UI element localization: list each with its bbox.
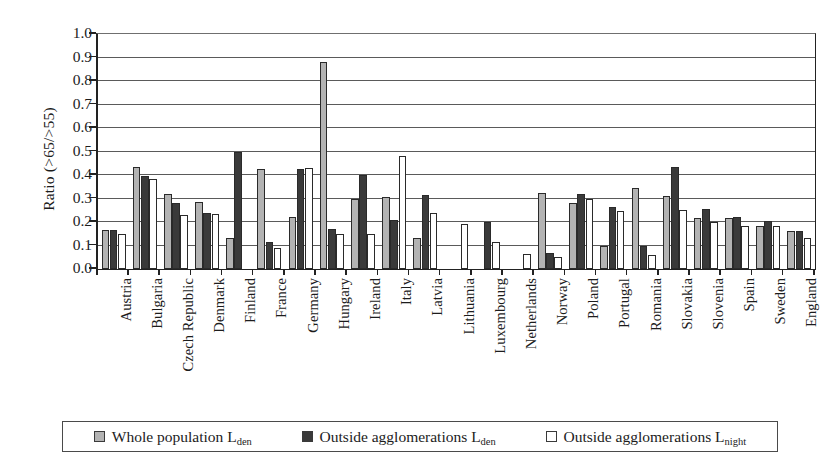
bar (546, 253, 554, 269)
x-tick-mark (190, 269, 192, 275)
x-tick-label: Germany (305, 278, 322, 333)
bar (523, 254, 531, 269)
y-tick-mark (89, 103, 96, 105)
x-tick-mark (532, 269, 534, 275)
plot-area (96, 33, 816, 270)
x-tick-mark (96, 269, 98, 275)
bar-group (566, 34, 597, 269)
x-tick-label: Czech Republic (180, 278, 197, 372)
x-tick-mark (221, 269, 223, 275)
x-tick-mark (470, 269, 472, 275)
x-tick-label: Italy (398, 278, 415, 305)
y-tick-label: 0.2 (52, 213, 92, 229)
bar (554, 257, 562, 269)
bar (804, 238, 812, 269)
legend-label: Outside agglomerations Lden (320, 428, 496, 446)
bar (118, 234, 126, 269)
legend-swatch-icon (302, 431, 313, 442)
bar (141, 176, 149, 269)
bar (741, 226, 749, 269)
y-tick-mark (89, 267, 96, 269)
x-tick-label: Finland (242, 278, 259, 323)
y-tick-mark (89, 126, 96, 128)
x-tick-mark (813, 269, 815, 275)
bar (203, 213, 211, 269)
bar (694, 218, 702, 269)
x-tick-mark (283, 269, 285, 275)
bar (336, 234, 344, 269)
x-tick-label: Poland (585, 278, 602, 319)
bar (609, 207, 617, 269)
bar (110, 230, 118, 269)
legend-item[interactable]: Whole population Lden (94, 428, 252, 446)
y-tick-label: 0.4 (52, 166, 92, 182)
x-tick-label: Norway (554, 278, 571, 325)
bar (796, 231, 804, 269)
y-tick-label: 0.7 (52, 96, 92, 112)
bar-group (316, 34, 347, 269)
x-tick-label: Denmark (211, 278, 228, 333)
bar (133, 167, 141, 269)
legend-item[interactable]: Outside agglomerations Lden (302, 428, 496, 446)
bar (671, 167, 679, 269)
bar-group (410, 34, 441, 269)
bar (430, 213, 438, 269)
x-tick-mark (501, 269, 503, 275)
bar (725, 218, 733, 269)
y-tick-mark (89, 197, 96, 199)
bar-group (659, 34, 690, 269)
bar (632, 188, 640, 269)
bar-group (472, 34, 503, 269)
bar-group (192, 34, 223, 269)
chart-legend: Whole population LdenOutside agglomerati… (62, 421, 778, 452)
x-tick-label: Lithuania (461, 278, 478, 334)
x-tick-mark (314, 269, 316, 275)
x-tick-mark (377, 269, 379, 275)
bar (382, 197, 390, 269)
legend-item[interactable]: Outside agglomerations Lnight (546, 428, 747, 446)
x-axis-ticks (96, 269, 813, 276)
bar-group (98, 34, 129, 269)
bar-chart-figure: Ratio (>65/>55) 0.00.10.20.30.40.50.60.7… (0, 0, 840, 474)
bar (351, 199, 359, 270)
bar (617, 211, 625, 269)
x-tick-label: Luxembourg (492, 278, 509, 354)
bar (640, 246, 648, 270)
x-tick-mark (127, 269, 129, 275)
x-tick-label: Sweden (772, 278, 789, 325)
x-tick-label: Bulgaria (149, 278, 166, 329)
x-tick-label: Portugal (616, 278, 633, 328)
y-tick-label: 0.0 (52, 260, 92, 276)
x-tick-mark (626, 269, 628, 275)
y-tick-label: 1.0 (52, 25, 92, 41)
y-tick-label: 0.9 (52, 49, 92, 65)
bar (359, 175, 367, 269)
x-tick-mark (252, 269, 254, 275)
x-tick-mark (408, 269, 410, 275)
bar-groups (98, 34, 815, 269)
y-tick-mark (89, 150, 96, 152)
y-tick-label: 0.3 (52, 190, 92, 206)
y-tick-mark (89, 244, 96, 246)
bar-group (721, 34, 752, 269)
bar (663, 196, 671, 269)
bar (733, 217, 741, 269)
bar (226, 238, 234, 269)
bar (787, 231, 795, 269)
y-tick-label: 0.1 (52, 237, 92, 253)
x-tick-label: Netherlands (523, 278, 540, 349)
y-tick-mark (89, 56, 96, 58)
bar (756, 226, 764, 269)
bar (102, 230, 110, 269)
x-tick-mark (688, 269, 690, 275)
x-tick-label: Ireland (367, 278, 384, 320)
y-tick-mark (89, 32, 96, 34)
bar (289, 217, 297, 269)
bar (399, 156, 407, 269)
bar (648, 255, 656, 269)
bar (257, 169, 265, 269)
bar (320, 62, 328, 269)
y-tick-mark (89, 173, 96, 175)
bar (212, 214, 220, 269)
legend-swatch-icon (546, 431, 557, 442)
